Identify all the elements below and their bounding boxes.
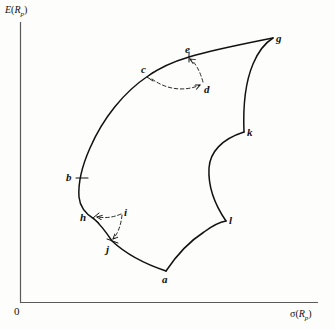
point-label-b: b (66, 172, 72, 183)
dashed-i-to-j (113, 215, 122, 239)
origin-label: 0 (14, 306, 20, 317)
figure-canvas: E(Rp) σ(Rp) 0 a b c d e g h i j k l (0, 0, 335, 329)
point-label-j: j (106, 244, 109, 255)
dashed-d-to-e (190, 59, 203, 82)
curve-notch-arc (209, 132, 244, 221)
point-label-i: i (124, 207, 127, 218)
curve-left-frontier (79, 38, 273, 271)
dashed-i-to-h (97, 214, 121, 218)
point-label-k: k (247, 127, 253, 138)
point-label-d: d (204, 84, 210, 95)
point-label-e: e (185, 44, 190, 55)
x-axis-label: σ(Rp) (290, 309, 312, 322)
point-label-h: h (80, 212, 86, 223)
curve-lower-right-arc (166, 221, 226, 271)
y-axis-label: E(Rp) (5, 5, 27, 18)
marker-c-arrow (147, 72, 153, 81)
dashed-c-to-d (152, 79, 200, 89)
curve-upper-right-arc (244, 38, 273, 132)
construction-cde (152, 59, 203, 89)
frontier-curves (79, 38, 273, 271)
point-label-l: l (229, 215, 232, 226)
point-label-g: g (276, 33, 282, 44)
point-label-c: c (141, 64, 146, 75)
point-label-a: a (162, 274, 168, 285)
